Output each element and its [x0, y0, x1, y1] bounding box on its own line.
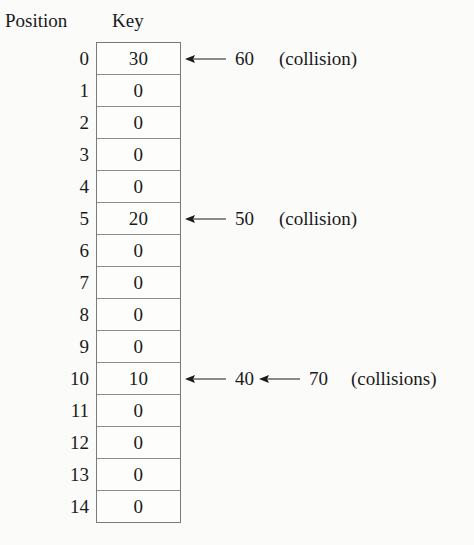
cell-position: 14	[0, 491, 89, 522]
hash-table-diagram: Position Key 03060(collision)10203040520…	[0, 0, 474, 545]
table-row: 140	[97, 491, 180, 523]
cell-key: 20	[97, 203, 180, 234]
table-row: 03060(collision)	[97, 43, 180, 75]
left-arrow-icon	[184, 373, 226, 385]
table-row: 90	[97, 331, 180, 363]
cell-position: 11	[0, 395, 89, 426]
table-row: 120	[97, 427, 180, 459]
table-row: 20	[97, 107, 180, 139]
cell-key: 0	[97, 491, 180, 522]
annotation-value: 50	[226, 208, 258, 230]
column-headers: Position Key	[0, 9, 474, 37]
annotation-value: 40	[226, 368, 258, 390]
table-row: 10	[97, 75, 180, 107]
row-annotation: 60(collision)	[180, 43, 357, 74]
cell-position: 4	[0, 171, 89, 202]
cell-key: 0	[97, 459, 180, 490]
cell-position: 13	[0, 459, 89, 490]
table-row: 30	[97, 139, 180, 171]
cell-key: 0	[97, 427, 180, 458]
table-row: 80	[97, 299, 180, 331]
cell-position: 10	[0, 363, 89, 394]
cell-key: 0	[97, 395, 180, 426]
annotation-value: 60	[226, 48, 258, 70]
left-arrow-icon	[258, 373, 300, 385]
row-annotation: 50(collision)	[180, 203, 357, 234]
cell-key: 0	[97, 75, 180, 106]
cell-position: 7	[0, 267, 89, 298]
annotation-note: (collisions)	[332, 368, 437, 390]
cell-position: 2	[0, 107, 89, 138]
header-position: Position	[5, 9, 67, 33]
table-row: 40	[97, 171, 180, 203]
cell-key: 0	[97, 267, 180, 298]
table-row: 10104070(collisions)	[97, 363, 180, 395]
cell-position: 12	[0, 427, 89, 458]
row-annotation: 4070(collisions)	[180, 363, 437, 394]
cell-key: 0	[97, 107, 180, 138]
annotation-value: 70	[300, 368, 332, 390]
cell-key: 10	[97, 363, 180, 394]
table-row: 52050(collision)	[97, 203, 180, 235]
header-key: Key	[112, 9, 144, 33]
cell-position: 9	[0, 331, 89, 362]
table-row: 110	[97, 395, 180, 427]
annotation-note: (collision)	[258, 208, 357, 230]
cell-position: 8	[0, 299, 89, 330]
table-row: 60	[97, 235, 180, 267]
cell-key: 0	[97, 235, 180, 266]
cell-position: 0	[0, 43, 89, 74]
cell-position: 6	[0, 235, 89, 266]
left-arrow-icon	[184, 213, 226, 225]
cell-position: 5	[0, 203, 89, 234]
cell-key: 0	[97, 299, 180, 330]
annotation-note: (collision)	[258, 48, 357, 70]
left-arrow-icon	[184, 53, 226, 65]
table-row: 70	[97, 267, 180, 299]
cell-key: 30	[97, 43, 180, 74]
hash-table: 03060(collision)1020304052050(collision)…	[96, 42, 181, 523]
cell-position: 3	[0, 139, 89, 170]
cell-position: 1	[0, 75, 89, 106]
cell-key: 0	[97, 331, 180, 362]
cell-key: 0	[97, 139, 180, 170]
table-row: 130	[97, 459, 180, 491]
cell-key: 0	[97, 171, 180, 202]
